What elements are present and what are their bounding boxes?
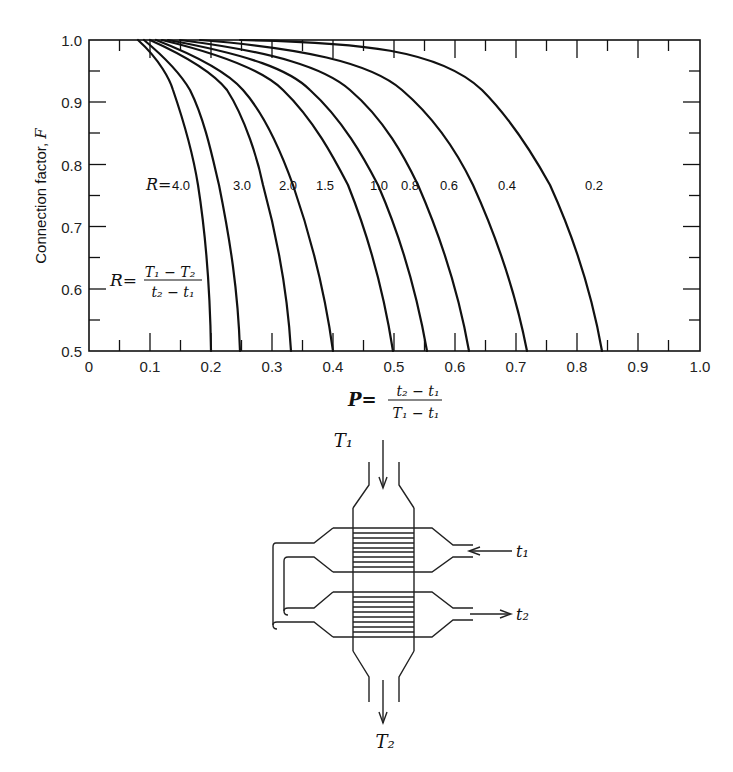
r-def-denominator: t₂ − t₁ [151, 284, 194, 300]
label-r-4.0: 4.0 [172, 178, 190, 193]
y-tick-0.7: 0.7 [61, 219, 82, 236]
y-tick-0.9: 0.9 [61, 94, 82, 111]
r-prefix-label: R= [145, 175, 171, 194]
tube-inlet-label: t₁ [516, 542, 529, 561]
x-tick-0.6: 0.6 [445, 358, 466, 375]
label-r-1.0: 1.0 [370, 178, 388, 193]
r-definition: R= T₁ − T₂ t₂ − t₁ [109, 264, 202, 300]
label-r-0.8: 0.8 [401, 178, 419, 193]
x-ticks-bottom [120, 333, 669, 351]
p-def-lhs: P= [347, 389, 377, 410]
y-axis-title: Connection factor, F [32, 128, 50, 264]
shell-outlet-label: T₂ [375, 731, 394, 752]
shell-inlet-label: T₁ [334, 430, 353, 451]
y-ticks-right [683, 71, 700, 320]
shell-outlet-arrow [379, 680, 387, 723]
y-tick-0.8: 0.8 [61, 157, 82, 174]
x-tick-0.5: 0.5 [384, 358, 405, 375]
f-curves [138, 40, 602, 351]
upper-tube-bundle [273, 528, 473, 572]
x-tick-0.9: 0.9 [628, 358, 649, 375]
p-definition: P= t₂ − t₁ T₁ − t₁ [347, 383, 442, 421]
y-tick-0.5: 0.5 [61, 343, 82, 360]
label-r-2.0: 2.0 [279, 178, 297, 193]
y-ticks-left [89, 71, 106, 320]
x-tick-0.3: 0.3 [262, 358, 283, 375]
x-tick-1.0: 1.0 [690, 358, 711, 375]
shell-inlet-arrow [379, 440, 387, 488]
p-def-numerator: t₂ − t₁ [396, 383, 439, 399]
x-tick-0.2: 0.2 [201, 358, 222, 375]
return-loop [273, 547, 288, 629]
curve-r-0.2 [240, 40, 602, 351]
label-r-0.2: 0.2 [585, 178, 603, 193]
x-tick-0: 0 [85, 358, 93, 375]
curve-labels: R= 4.0 3.0 2.0 1.5 1.0 0.8 0.6 0.4 0.2 [145, 175, 603, 194]
y-tick-labels: 0.5 0.6 0.7 0.8 0.9 1.0 [61, 32, 82, 360]
tube-outlet-arrow [470, 610, 511, 618]
label-r-3.0: 3.0 [233, 178, 251, 193]
f-factor-figure: 0 0.1 0.2 0.3 0.4 0.5 0.6 0.7 0.8 0.9 1.… [0, 0, 733, 772]
x-tick-0.8: 0.8 [567, 358, 588, 375]
r-def-lhs: R= [109, 270, 137, 290]
shell-body [353, 508, 414, 651]
label-r-1.5: 1.5 [316, 178, 334, 193]
label-r-0.4: 0.4 [498, 178, 516, 193]
x-tick-0.7: 0.7 [506, 358, 527, 375]
exchanger-diagram: T₁ [273, 430, 529, 752]
tube-inlet-arrow [469, 547, 512, 555]
lower-tube-bundle [273, 592, 473, 637]
tube-outlet-label: t₂ [516, 605, 529, 624]
x-tick-0.4: 0.4 [323, 358, 344, 375]
label-r-0.6: 0.6 [440, 178, 458, 193]
chart: 0 0.1 0.2 0.3 0.4 0.5 0.6 0.7 0.8 0.9 1.… [32, 32, 710, 421]
y-tick-0.6: 0.6 [61, 281, 82, 298]
x-tick-0.1: 0.1 [140, 358, 161, 375]
y-tick-1.0: 1.0 [61, 32, 82, 49]
curve-r-4.0 [138, 40, 211, 351]
r-def-numerator: T₁ − T₂ [145, 264, 196, 280]
curve-r-1.0 [162, 40, 393, 351]
plot-frame [89, 40, 700, 351]
x-tick-labels: 0 0.1 0.2 0.3 0.4 0.5 0.6 0.7 0.8 0.9 1.… [85, 358, 711, 375]
p-def-denominator: T₁ − t₁ [393, 405, 440, 421]
